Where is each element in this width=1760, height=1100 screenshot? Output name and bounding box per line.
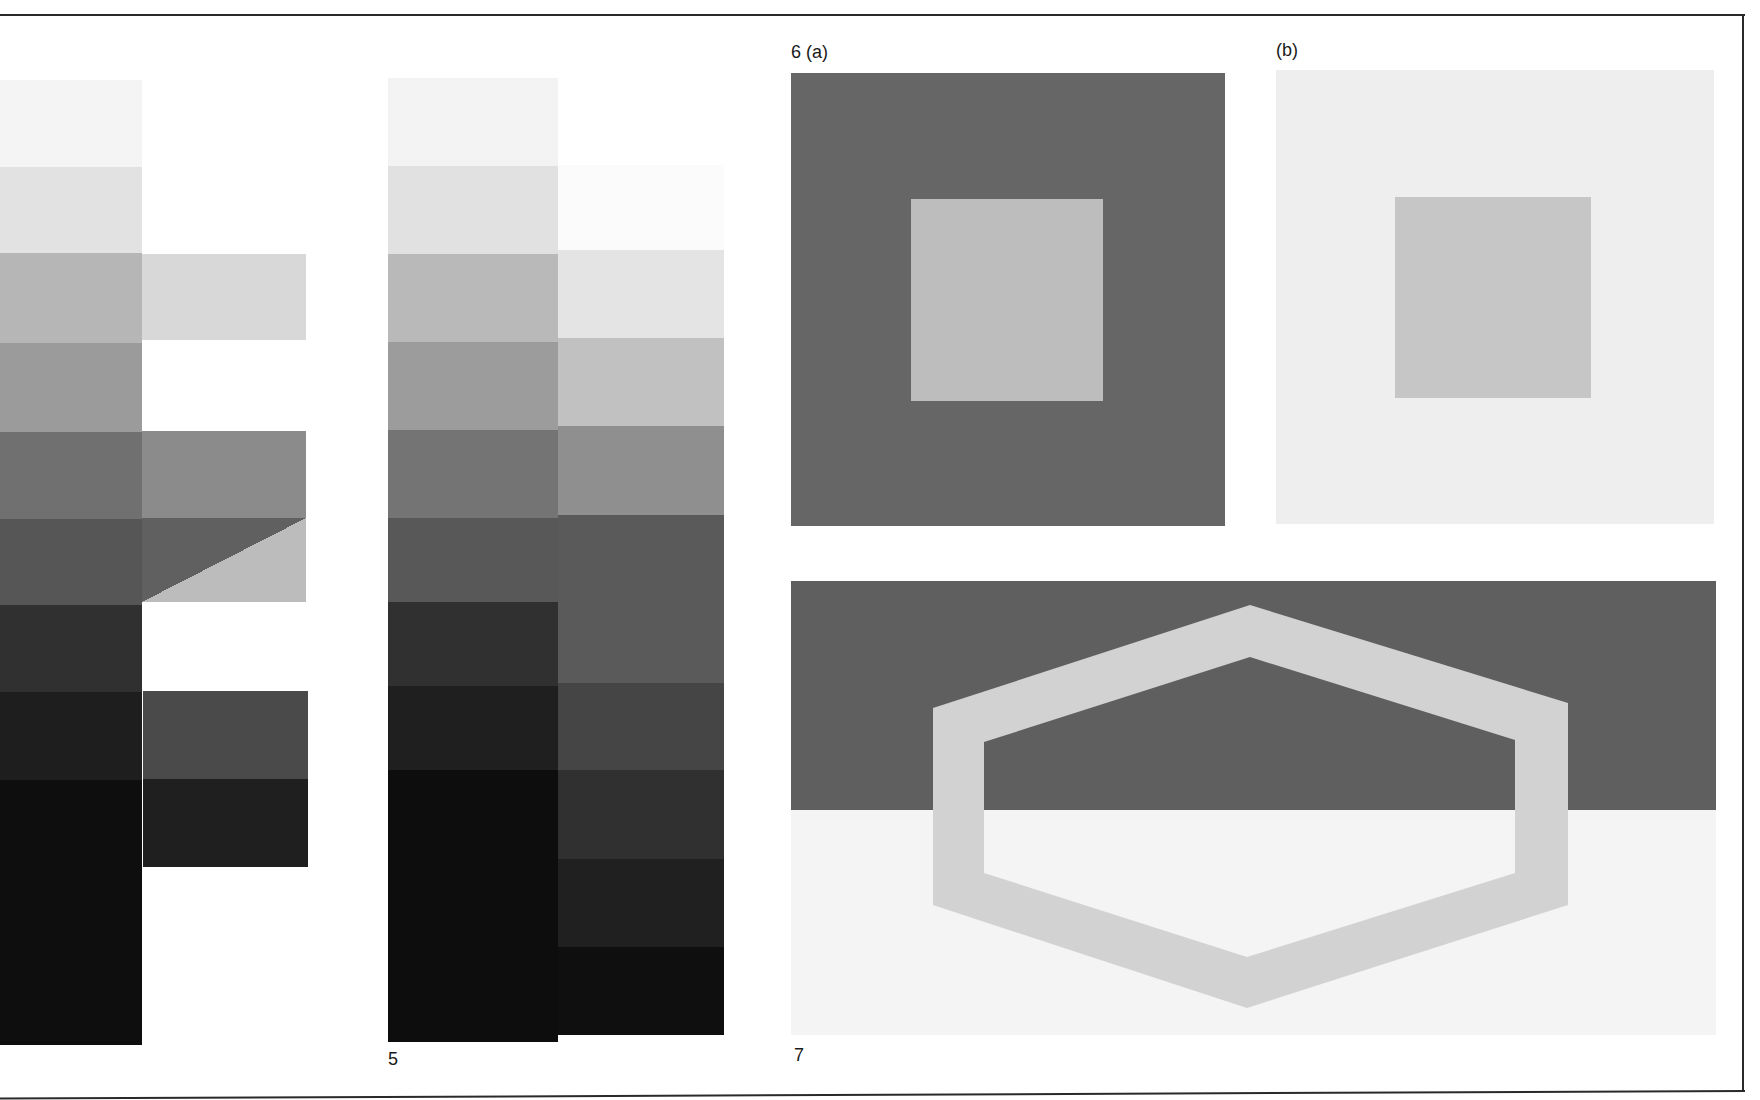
figure-7-label: 7 [794, 1046, 804, 1064]
